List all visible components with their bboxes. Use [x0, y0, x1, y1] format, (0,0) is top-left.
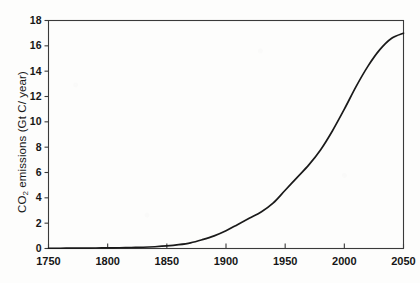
y-axis-tick-label: 12 [30, 90, 42, 102]
data-line-co2-emissions [49, 33, 404, 248]
x-axis-tick-label: 1800 [95, 255, 119, 267]
x-axis-tick-label: 1900 [214, 255, 238, 267]
plot-area: 0246810121416181750180018501900195020002… [0, 0, 420, 283]
x-axis-tick-label: 1750 [36, 255, 60, 267]
y-axis-tick-label: 0 [36, 242, 42, 254]
plot-frame [49, 21, 404, 249]
chart-figure: CO2 emissions (Gt C/ year) 0246810121416… [0, 0, 420, 283]
x-axis-tick-label: 1950 [273, 255, 297, 267]
x-axis-tick-label: 2050 [391, 255, 415, 267]
y-axis-tick-label: 6 [36, 166, 42, 178]
y-axis-tick-label: 8 [36, 141, 42, 153]
y-axis-tick-label: 2 [36, 217, 42, 229]
y-axis-tick-label: 4 [36, 191, 42, 203]
x-axis-tick-label: 2000 [332, 255, 356, 267]
y-axis-tick-label: 18 [30, 14, 42, 26]
x-axis-tick-label: 1850 [155, 255, 179, 267]
y-axis-tick-label: 14 [30, 65, 42, 77]
y-axis-tick-label: 10 [30, 115, 42, 127]
y-axis-tick-label: 16 [30, 39, 42, 51]
